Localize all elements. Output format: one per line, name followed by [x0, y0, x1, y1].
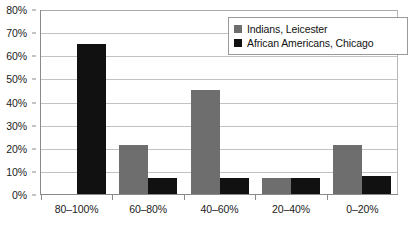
y-axis: 80%70%60%50%40%30%20%10%0%: [0, 10, 36, 195]
legend-swatch-icon: [234, 39, 242, 47]
y-axis-tick-mark: [32, 33, 36, 34]
y-axis-tick-mark: [32, 102, 36, 103]
bar: [362, 176, 391, 195]
y-axis-tick-label: 20%: [6, 143, 27, 155]
x-axis-label: 80–100%: [41, 203, 112, 215]
legend-item: Indians, Leicester: [234, 22, 401, 36]
x-axis-tick-mark: [112, 195, 113, 200]
bar: [333, 145, 362, 194]
x-axis-labels: 80–100%60–80%40–60%20–40%0–20%: [41, 203, 398, 215]
bar-group: [112, 10, 183, 194]
x-axis-ticks: [41, 195, 398, 203]
x-axis-tick: [255, 195, 326, 203]
y-axis-tick-mark: [32, 195, 36, 196]
bar: [191, 90, 220, 194]
x-axis-label: 60–80%: [112, 203, 183, 215]
x-axis-tick-mark: [255, 195, 256, 200]
y-axis-tick-label: 10%: [6, 166, 27, 178]
y-axis-tick-label: 40%: [6, 97, 27, 109]
bar-group: [41, 10, 112, 194]
y-axis-tick-label: 60%: [6, 50, 27, 62]
y-axis-tick-mark: [32, 148, 36, 149]
bar: [77, 44, 106, 194]
x-axis-tick: [184, 195, 255, 203]
x-axis-label: 20–40%: [255, 203, 326, 215]
legend: Indians, Leicester African Americans, Ch…: [228, 17, 408, 55]
bar: [291, 178, 320, 194]
legend-swatch-icon: [234, 25, 242, 33]
bar: [220, 178, 249, 194]
legend-label: Indians, Leicester: [247, 23, 328, 35]
x-axis-label: 40–60%: [184, 203, 255, 215]
y-axis-tick-label: 80%: [6, 4, 27, 16]
y-axis-tick-label: 50%: [6, 73, 27, 85]
y-axis-tick-mark: [32, 125, 36, 126]
bar: [148, 178, 177, 194]
y-axis-tick-mark: [32, 10, 36, 11]
x-axis-label: 0–20%: [327, 203, 398, 215]
x-axis-tick: [41, 195, 112, 203]
legend-item: African Americans, Chicago: [234, 36, 401, 50]
x-axis-tick-mark: [184, 195, 185, 200]
legend-label: African Americans, Chicago: [247, 37, 373, 49]
x-axis-tick-mark: [327, 195, 328, 200]
bar-chart: 80%70%60%50%40%30%20%10%0% 80–100%60–80%…: [0, 0, 408, 230]
y-axis-tick-mark: [32, 171, 36, 172]
y-axis-tick-mark: [32, 79, 36, 80]
x-axis-tick: [112, 195, 183, 203]
bar: [262, 178, 291, 194]
x-axis-tick: [327, 195, 398, 203]
y-axis-tick-label: 70%: [6, 27, 27, 39]
x-axis-tick-mark: [41, 195, 42, 200]
y-axis-tick-label: 30%: [6, 120, 27, 132]
y-axis-tick-label: 0%: [12, 189, 27, 201]
y-axis-tick-mark: [32, 56, 36, 57]
bar: [119, 145, 148, 194]
